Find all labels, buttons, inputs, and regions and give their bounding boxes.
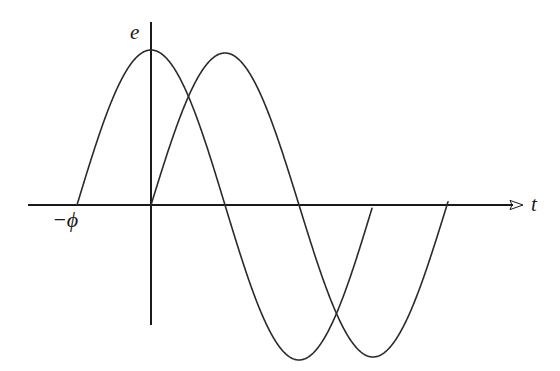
sine-wave-phase-figure: e t −ϕ [0,0,560,371]
x-axis-arrow-icon [510,200,523,209]
x-axis-label: t [531,194,537,215]
plot-canvas [0,0,560,371]
axes-group [28,22,523,325]
phase-offset-label: −ϕ [52,209,78,231]
y-axis-label: e [130,22,139,43]
